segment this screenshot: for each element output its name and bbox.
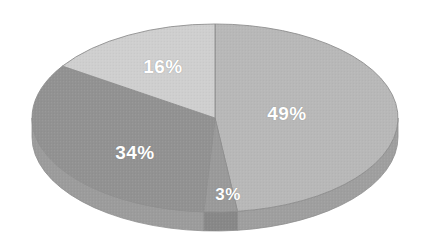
pie-chart-figure: 49% 3% 34% 16% xyxy=(0,0,427,235)
slice-label-49: 49% xyxy=(267,104,307,123)
slice-label-3: 3% xyxy=(215,186,241,203)
pie-chart-svg xyxy=(0,0,427,235)
slice-label-16: 16% xyxy=(143,57,183,76)
slice-label-34: 34% xyxy=(115,143,155,162)
pie-slice-side-texture xyxy=(204,211,238,231)
